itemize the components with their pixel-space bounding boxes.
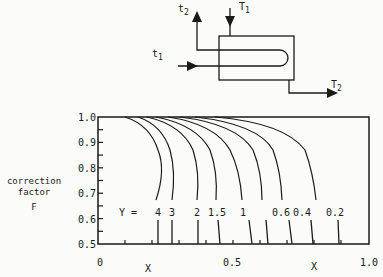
label-T1: T1 — [239, 1, 250, 16]
xtick-0: 0 — [97, 257, 103, 268]
label-t1: t1 — [152, 48, 163, 63]
series-label-0-4: 0.4 — [293, 207, 311, 218]
chart-canvas — [0, 0, 383, 277]
x-axis-label-left: X — [145, 263, 151, 274]
xtick-0-5: 0.5 — [223, 257, 241, 268]
series-label-2: 2 — [194, 207, 200, 218]
ytick-0-8: 0.8 — [78, 163, 96, 174]
series-label-1-5: 1.5 — [208, 207, 226, 218]
exchanger-shell — [219, 36, 294, 80]
y-axis-title: correction factor F — [2, 176, 66, 213]
curve-y-3 — [138, 117, 174, 200]
T1-arrow-icon — [225, 16, 235, 27]
t2-arrow-icon — [192, 11, 202, 22]
series-label-0-6: 0.6 — [272, 207, 290, 218]
label-t2: t2 — [178, 3, 189, 18]
series-label-1: 1 — [240, 207, 246, 218]
curve-y-0-2 — [215, 117, 316, 200]
heat-exchanger-diagram — [178, 8, 335, 93]
curve-y-4 — [125, 117, 162, 200]
tube-path — [178, 18, 288, 66]
y-prefix-label: Y = — [119, 207, 137, 218]
x-axis-label-right: X — [311, 261, 317, 272]
series-label-0-2: 0.2 — [326, 207, 344, 218]
label-T2: T2 — [331, 79, 342, 94]
t1-arrow-icon — [187, 61, 198, 71]
xtick-1-0: 1.0 — [360, 257, 378, 268]
ytick-1-0: 1.0 — [78, 112, 96, 123]
series-label-3: 3 — [169, 207, 175, 218]
chart-frame — [98, 117, 369, 244]
series-label-4: 4 — [155, 207, 161, 218]
curve-y-1 — [168, 117, 242, 200]
ytick-0-7: 0.7 — [78, 188, 96, 199]
arrowheads — [187, 11, 338, 98]
correction-curves — [125, 117, 316, 200]
asymptote-lines — [158, 220, 339, 244]
ytick-0-6: 0.6 — [78, 214, 96, 225]
ytick-0-5: 0.5 — [78, 239, 96, 250]
curve-y-0-6 — [180, 117, 262, 200]
ytick-0-9: 0.9 — [78, 137, 96, 148]
